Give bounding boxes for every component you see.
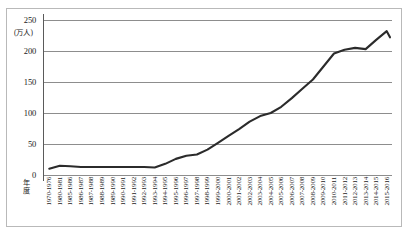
x-tick-label: 1995-1996: [173, 177, 180, 206]
x-tick-label: 1985-1986: [67, 177, 74, 206]
x-tick-label: 1997-1998: [194, 177, 201, 206]
y-tick-label: 250: [2, 16, 36, 25]
x-tick-label: 2000-2001: [226, 177, 233, 206]
x-tick-label: 1992-1993: [141, 177, 148, 206]
y-tick-label: 100: [2, 109, 36, 118]
x-tick-label: 1999-2000: [215, 177, 222, 206]
x-tick-label: 1988-1989: [99, 177, 106, 206]
x-tick-label: 2012-2013: [352, 177, 359, 206]
x-tick-label: 2008-2009: [310, 177, 317, 206]
x-tick-label: 1998-1999: [204, 177, 211, 206]
x-tick-label: 2006-2007: [289, 177, 296, 206]
x-tick-label: 1991-1992: [131, 177, 138, 206]
x-tick-label: 1993-1994: [152, 177, 159, 206]
x-tick-label: 1994-1995: [162, 177, 169, 206]
x-tick-label: 2011-2012: [342, 177, 349, 205]
x-axis-tick-labels: 1970-19761980-19811985-19861986-19871987…: [44, 177, 392, 235]
line-series: [44, 20, 392, 175]
x-tick-label: 1980-1981: [57, 177, 64, 206]
x-tick-label: 2009-2010: [320, 177, 327, 206]
plot-area: [44, 20, 392, 175]
x-tick-label: 1986-1987: [78, 177, 85, 206]
y-tick-label: 150: [2, 78, 36, 87]
x-tick-label: 2002-2003: [247, 177, 254, 206]
x-tick-label: 2003-2004: [257, 177, 264, 206]
y-tick-label: 50: [2, 140, 36, 149]
y-axis-unit-label: (万人): [14, 29, 33, 37]
x-tick-label: 2013-2014: [363, 177, 370, 206]
y-tick-label: 200: [2, 47, 36, 56]
x-tick-label: 2004-2005: [268, 177, 275, 206]
x-tick-label: 2005-2006: [278, 177, 285, 206]
x-axis-title: 年度: [20, 180, 32, 195]
x-tick-label: 1987-1988: [88, 177, 95, 206]
y-tick-label: 0: [2, 171, 36, 180]
x-tick-label: 2015-2016: [384, 177, 391, 206]
x-tick-label: 1996-1997: [183, 177, 190, 206]
x-tick-label: 1990-1991: [120, 177, 127, 206]
x-tick-label: 2001-2002: [236, 177, 243, 206]
x-tick-label: 2007-2008: [299, 177, 306, 206]
x-tick-label: 1989-1990: [110, 177, 117, 206]
x-tick-label: 2010-2011: [331, 177, 338, 205]
x-tick-label: 1970-1976: [46, 177, 53, 206]
x-tick-label: 2014-2015: [373, 177, 380, 206]
chart-figure: (万人) 050100150200250 年度 1970-19761980-19…: [0, 0, 409, 236]
